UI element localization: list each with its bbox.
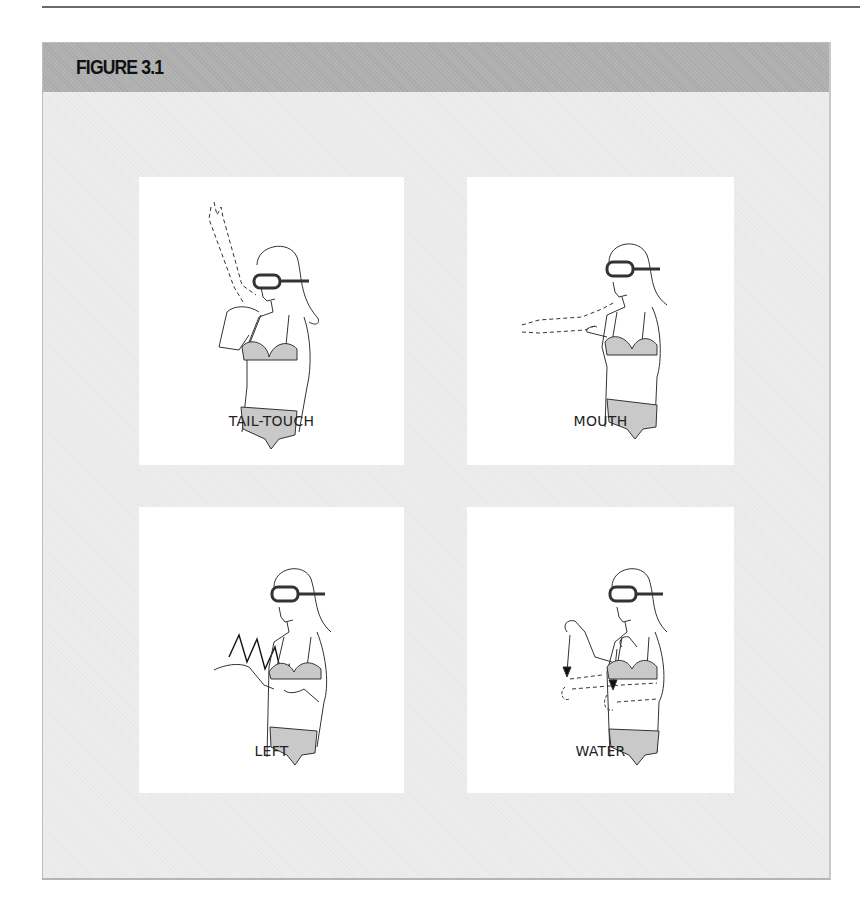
top-rule (42, 6, 860, 8)
panel-caption: WATER (467, 743, 734, 759)
panel-water: WATER (467, 507, 734, 793)
figure-header: FIGURE 3.1 (43, 43, 829, 92)
panel-tail-touch: TAIL-TOUCH (139, 177, 404, 465)
panel-caption: LEFT (139, 743, 404, 759)
figure-title: FIGURE 3.1 (76, 56, 163, 79)
panel-left: LEFT (139, 507, 404, 793)
panel-caption: TAIL-TOUCH (139, 413, 404, 429)
panel-mouth: MOUTH (467, 177, 734, 465)
panel-caption: MOUTH (467, 413, 734, 429)
